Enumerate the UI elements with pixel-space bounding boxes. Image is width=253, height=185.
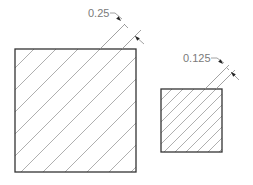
arrowhead-icon [116, 16, 121, 21]
small-square-hatch-pattern [104, 84, 253, 157]
large-square-hatch-pattern [0, 44, 253, 177]
hatch-line [225, 84, 253, 157]
large-square-outline [15, 49, 136, 172]
extension-line [205, 65, 229, 89]
hatch-line [115, 84, 188, 157]
hatch-line [148, 84, 221, 157]
hatch-line [0, 44, 105, 177]
hatch-line [0, 44, 61, 177]
leader-line [110, 13, 122, 19]
small-square-spacing-label: 0.125 [183, 52, 211, 64]
hatch-diagram-canvas: 0.25 0.125 [0, 0, 253, 185]
hatch-line [104, 84, 177, 157]
hatch-line [159, 84, 232, 157]
hatch-line [181, 84, 253, 157]
small-square-outline [161, 89, 222, 152]
dimension-line [124, 24, 128, 28]
hatch-line [0, 44, 39, 177]
small-square-section: 0.125 [104, 52, 253, 157]
hatch-line [16, 44, 149, 177]
dimension-line [227, 68, 229, 70]
hatch-line [38, 44, 171, 177]
extension-line [100, 24, 125, 49]
hatch-line [126, 84, 199, 157]
hatch-line [214, 84, 253, 157]
hatch-line [170, 84, 243, 157]
hatch-line [137, 84, 210, 157]
large-square-spacing-label: 0.25 [88, 7, 109, 19]
